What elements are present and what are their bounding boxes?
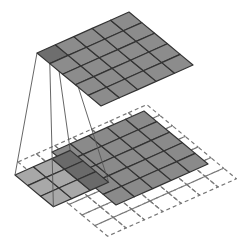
padding-cell xyxy=(187,176,218,195)
padding-cell xyxy=(168,185,199,204)
output-grid xyxy=(37,12,193,106)
padding-cell xyxy=(82,207,113,226)
padding-cell xyxy=(113,209,144,228)
padding-cell xyxy=(69,196,100,215)
padding-cell xyxy=(150,193,181,212)
convolution-diagram xyxy=(0,0,246,252)
projection-line xyxy=(15,53,37,175)
padding-cell xyxy=(205,168,236,187)
padding-cell xyxy=(132,201,163,220)
padding-cell xyxy=(95,217,126,236)
